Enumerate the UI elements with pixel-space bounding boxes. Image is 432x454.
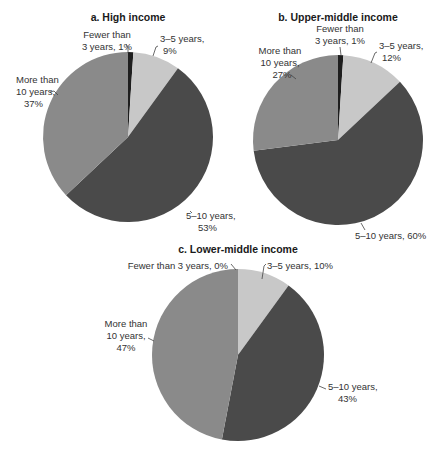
leader-line (231, 264, 236, 270)
label-5-10: 5–10 years, 60% (355, 230, 427, 241)
label-5-10: 5–10 years, (328, 381, 378, 392)
label-more-than-10-years: 10 years, (260, 57, 299, 68)
leader-line (371, 52, 377, 63)
label-fewer-than-3: Fewer than 3 years, 0% (128, 260, 229, 271)
label-3-5: 3–5 years, (160, 33, 204, 44)
pie-slice-more-than-10-years (152, 269, 238, 439)
leader-line (148, 338, 154, 341)
label-fewer-than-3: Fewer than (316, 23, 364, 34)
label-fewer-than-3-value: 3 years, 1% (82, 41, 133, 52)
pie-chart-high-income: a. High income Fewer than 3 years, 1% 3–… (16, 11, 236, 233)
leader-line (153, 46, 158, 56)
label-more-than-10-value: 37% (24, 98, 44, 109)
chart-title: b. Upper-middle income (278, 11, 398, 23)
pie-slices (253, 55, 423, 225)
label-3-5-value: 9% (163, 45, 177, 56)
label-3-5: 3–5 years, (379, 40, 423, 51)
pie-slice-more-than-10-years (253, 55, 338, 151)
pie-slices (152, 269, 324, 441)
label-more-than-10: More than (259, 45, 302, 56)
label-more-than-10-value: 47% (116, 342, 136, 353)
label-more-than-10-value: 27% (272, 69, 292, 80)
label-more-than-10-years: 10 years, (106, 330, 145, 341)
leader-line (361, 223, 365, 230)
pie-slices (43, 52, 213, 222)
label-more-than-10: More than (16, 74, 59, 85)
label-more-than-10-years: 10 years, (16, 86, 55, 97)
pie-chart-lower-middle-income: c. Lower-middle income Fewer than 3 year… (105, 243, 378, 441)
label-5-10-value: 53% (198, 222, 218, 233)
label-3-5: 3–5 years, 10% (267, 260, 334, 271)
label-5-10-value: 43% (338, 393, 358, 404)
pie-charts-figure: a. High income Fewer than 3 years, 1% 3–… (0, 0, 432, 454)
leader-line (340, 47, 341, 55)
chart-title: a. High income (91, 11, 166, 23)
leader-line (319, 386, 326, 389)
pie-chart-upper-middle-income: b. Upper-middle income Fewer than 3 year… (253, 11, 427, 241)
label-more-than-10: More than (105, 318, 148, 329)
label-fewer-than-3: Fewer than (83, 29, 131, 40)
label-3-5-value: 12% (382, 52, 402, 63)
label-5-10: 5–10 years, (186, 210, 236, 221)
chart-title: c. Lower-middle income (178, 243, 298, 255)
label-fewer-than-3-value: 3 years, 1% (315, 35, 366, 46)
